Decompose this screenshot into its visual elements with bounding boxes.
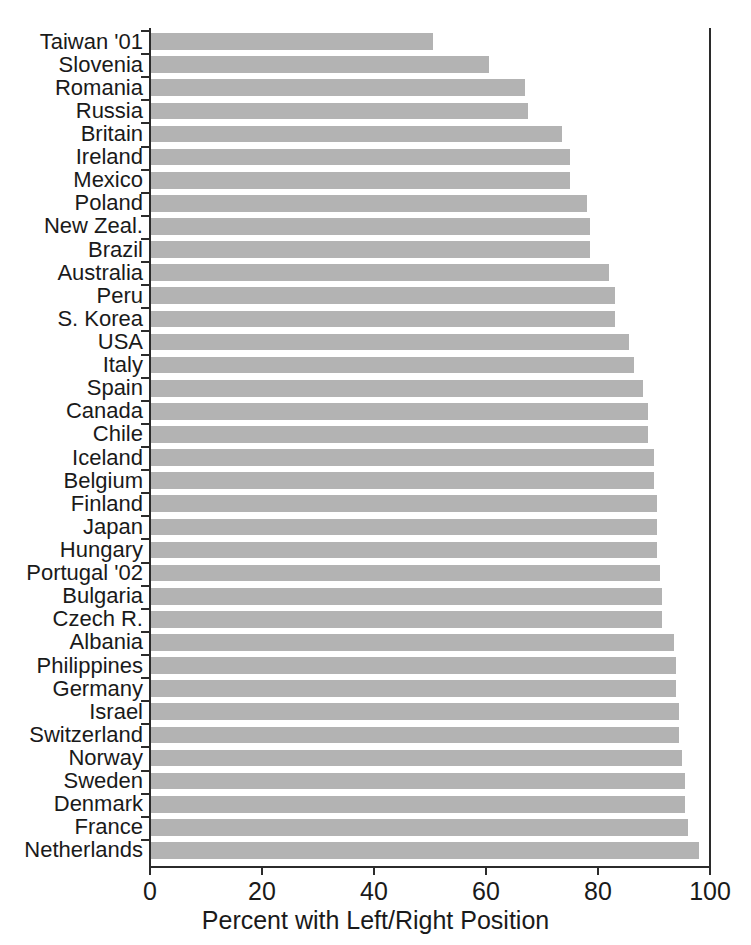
category-axis-labels: Taiwan '01SloveniaRomaniaRussiaBritainIr… <box>0 30 143 862</box>
bar <box>150 426 648 443</box>
bar <box>150 449 654 466</box>
category-tick <box>141 169 150 171</box>
category-tick <box>141 122 150 124</box>
bar <box>150 103 528 120</box>
value-tick-label: 20 <box>222 876 302 906</box>
bar <box>150 680 676 697</box>
category-tick <box>141 146 150 148</box>
bar <box>150 264 609 281</box>
bar <box>150 472 654 489</box>
category-tick <box>141 400 150 402</box>
plot-area <box>150 30 710 862</box>
bar <box>150 542 657 559</box>
bar <box>150 172 570 189</box>
bar <box>150 703 679 720</box>
bar <box>150 380 643 397</box>
bar <box>150 403 648 420</box>
category-tick <box>141 423 150 425</box>
category-tick <box>141 538 150 540</box>
category-tick <box>141 746 150 748</box>
bar <box>150 218 590 235</box>
category-tick <box>141 816 150 818</box>
bar <box>150 611 662 628</box>
category-tick <box>141 76 150 78</box>
category-tick <box>141 284 150 286</box>
bar <box>150 56 489 73</box>
value-tick <box>149 866 151 875</box>
category-tick <box>141 469 150 471</box>
value-tick-label: 80 <box>558 876 638 906</box>
category-tick <box>141 562 150 564</box>
bar <box>150 773 685 790</box>
category-tick <box>141 793 150 795</box>
category-tick <box>141 654 150 656</box>
value-axis-line <box>150 866 711 868</box>
category-tick <box>141 677 150 679</box>
bar <box>150 657 676 674</box>
category-tick <box>141 354 150 356</box>
category-tick <box>141 631 150 633</box>
category-tick <box>141 377 150 379</box>
value-tick <box>597 866 599 875</box>
bar <box>150 311 615 328</box>
category-tick <box>141 192 150 194</box>
value-tick-label: 100 <box>670 876 750 906</box>
value-tick <box>485 866 487 875</box>
value-tick-label: 60 <box>446 876 526 906</box>
category-tick <box>141 53 150 55</box>
bar <box>150 149 570 166</box>
bar-chart: Taiwan '01SloveniaRomaniaRussiaBritainIr… <box>0 0 751 945</box>
category-tick <box>141 330 150 332</box>
bar <box>150 126 562 143</box>
value-tick-label: 40 <box>334 876 414 906</box>
category-tick <box>141 307 150 309</box>
bar <box>150 519 657 536</box>
category-tick <box>141 492 150 494</box>
bar <box>150 79 525 96</box>
bar <box>150 565 660 582</box>
bar <box>150 287 615 304</box>
category-tick <box>141 770 150 772</box>
bar <box>150 241 590 258</box>
bar <box>150 819 688 836</box>
bar <box>150 750 682 767</box>
value-tick <box>261 866 263 875</box>
category-tick <box>141 261 150 263</box>
value-tick <box>709 866 711 875</box>
bar <box>150 796 685 813</box>
x-axis-title: Percent with Left/Right Position <box>0 906 751 935</box>
bar <box>150 357 634 374</box>
bar <box>150 495 657 512</box>
bar <box>150 334 629 351</box>
category-tick <box>141 215 150 217</box>
value-tick-label: 0 <box>110 876 190 906</box>
category-tick <box>141 700 150 702</box>
category-tick <box>141 515 150 517</box>
category-tick <box>141 585 150 587</box>
bar <box>150 842 699 859</box>
bar <box>150 727 679 744</box>
category-tick <box>141 446 150 448</box>
bar <box>150 33 433 50</box>
category-tick <box>141 30 150 32</box>
category-tick <box>141 608 150 610</box>
category-tick <box>141 723 150 725</box>
bar <box>150 634 674 651</box>
value-tick <box>373 866 375 875</box>
plot-right-frame-line <box>709 28 711 868</box>
bar <box>150 195 587 212</box>
category-axis-line <box>149 28 151 868</box>
category-tick <box>141 99 150 101</box>
category-tick <box>141 839 150 841</box>
bar <box>150 588 662 605</box>
category-tick <box>141 238 150 240</box>
category-label: Netherlands <box>24 836 143 864</box>
